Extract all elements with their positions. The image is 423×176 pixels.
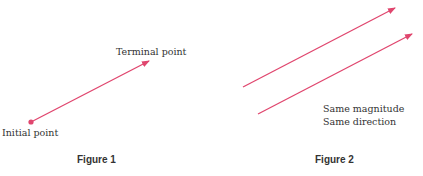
- figure2-vector-lower: [258, 34, 412, 114]
- figure1-caption: Figure 1: [77, 154, 116, 165]
- figure2-annotation-direction: Same direction: [323, 116, 396, 128]
- figure2-annotation-magnitude: Same magnitude: [323, 103, 404, 115]
- figure2-vectors: [243, 8, 412, 114]
- diagram-canvas: [0, 0, 423, 176]
- figure1-vector: [28, 61, 149, 125]
- initial-point-label: Initial point: [2, 127, 58, 139]
- initial-point-dot: [28, 119, 33, 124]
- terminal-point-label: Terminal point: [116, 46, 186, 58]
- figure2-vector-upper: [243, 8, 395, 87]
- figure2-caption: Figure 2: [315, 154, 354, 165]
